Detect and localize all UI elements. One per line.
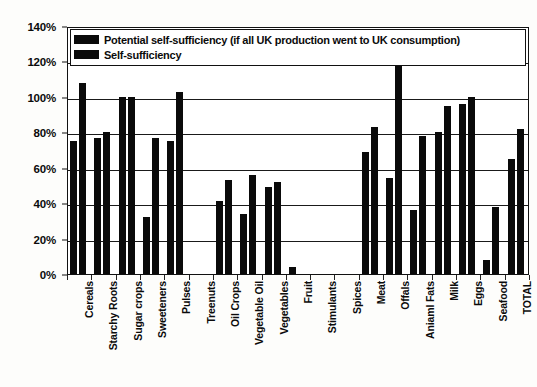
bar	[265, 187, 272, 274]
x-tick-label: TOTAL	[521, 281, 533, 314]
x-tick-mark	[262, 275, 263, 280]
x-tick-mark	[140, 275, 141, 280]
bar	[468, 97, 475, 274]
x-tick-mark	[359, 275, 360, 280]
bar	[362, 152, 369, 274]
x-tick-mark	[189, 275, 190, 280]
x-tick-label: Sugar crops	[132, 281, 144, 341]
chart-legend: Potential self-sufficiency (if all UK pr…	[70, 29, 526, 66]
x-tick-mark	[310, 275, 311, 280]
bar	[435, 132, 442, 274]
bar	[128, 97, 135, 274]
bar	[483, 260, 490, 274]
legend-swatch-icon	[74, 50, 99, 59]
bar	[152, 138, 159, 274]
bar	[289, 267, 296, 274]
bar	[371, 127, 378, 274]
legend-label: Potential self-sufficiency (if all UK pr…	[104, 34, 460, 46]
y-tick-label: 140%	[27, 21, 56, 33]
bar	[410, 210, 417, 274]
x-tick-mark	[505, 275, 506, 280]
x-tick-label: Treenuts	[205, 281, 217, 324]
bar	[103, 132, 110, 274]
x-tick-mark	[334, 275, 335, 280]
bar	[176, 92, 183, 274]
x-tick-mark	[286, 275, 287, 280]
bar	[508, 159, 515, 274]
bar	[459, 104, 466, 274]
bar	[143, 217, 150, 274]
bar	[79, 83, 86, 274]
x-tick-label: Eggs	[472, 281, 484, 306]
y-tick-label: 100%	[27, 92, 56, 104]
bar	[444, 106, 451, 274]
x-axis-labels: CerealsStarchy RootsSugar cropsSweetener…	[67, 281, 529, 385]
x-tick-mark	[213, 275, 214, 280]
bar	[119, 97, 126, 274]
bar	[249, 175, 256, 274]
bar	[274, 182, 281, 274]
y-tick-label: 20%	[34, 234, 56, 246]
x-tick-label: Offals	[399, 281, 411, 310]
y-tick-label: 60%	[34, 163, 56, 175]
x-tick-mark	[480, 275, 481, 280]
bar	[70, 141, 77, 274]
y-tick-label: 40%	[34, 198, 56, 210]
x-tick-mark	[529, 275, 530, 280]
x-tick-label: Stimulants	[326, 281, 338, 333]
x-tick-label: Vegetables	[278, 281, 290, 334]
bar	[225, 180, 232, 274]
y-tick-label: 0%	[40, 269, 56, 281]
x-tick-label: Vegetable Oil	[253, 281, 265, 345]
bar	[167, 141, 174, 274]
legend-label: Self-sufficiency	[104, 49, 181, 61]
x-tick-label: Oil Crops	[229, 281, 241, 327]
x-tick-label: Pulses	[180, 281, 192, 314]
legend-item-potential-self-sufficiency: Potential self-sufficiency (if all UK pr…	[74, 32, 522, 47]
bar	[386, 178, 393, 274]
self-sufficiency-bar-chart: 0%20%40%60%80%100%120%140% Potential sel…	[0, 0, 537, 387]
bar	[216, 201, 223, 274]
y-axis: 0%20%40%60%80%100%120%140%	[0, 0, 64, 387]
x-tick-mark	[432, 275, 433, 280]
bar	[419, 136, 426, 274]
x-tick-label: Milk	[448, 281, 460, 301]
legend-item-self-sufficiency: Self-sufficiency	[74, 47, 522, 62]
x-tick-label: Aniaml Fats	[424, 281, 436, 339]
x-tick-label: Spices	[351, 281, 363, 314]
x-tick-label: Sweeteners	[156, 281, 168, 338]
x-tick-label: Meat	[375, 281, 387, 304]
x-tick-mark	[91, 275, 92, 280]
y-tick-label: 80%	[34, 127, 56, 139]
x-tick-mark	[164, 275, 165, 280]
x-tick-label: Fruit	[302, 281, 314, 304]
bar	[492, 207, 499, 274]
bar	[240, 214, 247, 274]
bar	[395, 49, 402, 274]
x-tick-mark	[383, 275, 384, 280]
x-tick-mark	[456, 275, 457, 280]
bar	[517, 129, 524, 274]
x-tick-label: Seafood	[497, 281, 509, 321]
x-tick-mark	[67, 275, 68, 280]
x-tick-mark	[407, 275, 408, 280]
x-tick-mark	[237, 275, 238, 280]
bar	[94, 138, 101, 274]
legend-swatch-icon	[74, 35, 99, 44]
x-tick-label: Starchy Roots	[107, 281, 119, 350]
x-tick-label: Cereals	[83, 281, 95, 318]
y-tick-label: 120%	[27, 56, 56, 68]
x-tick-mark	[116, 275, 117, 280]
